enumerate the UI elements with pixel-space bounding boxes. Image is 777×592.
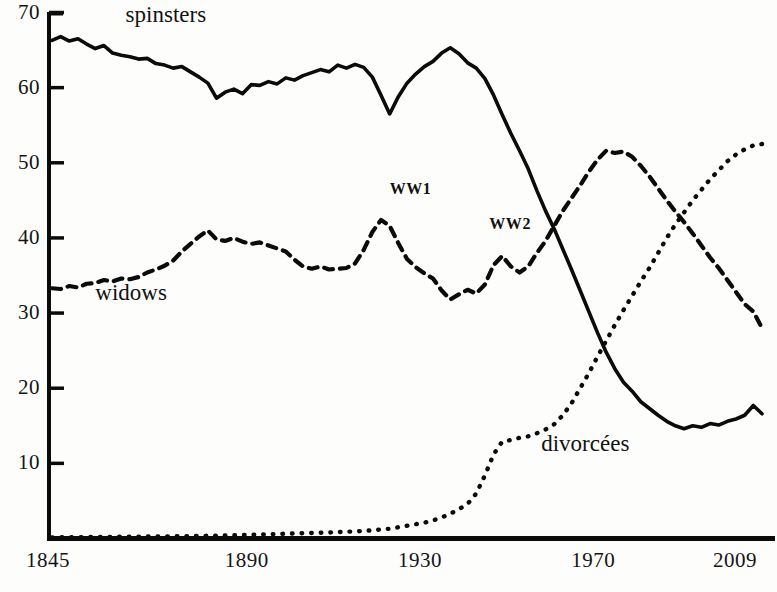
x-tick-label: 1845 [0,548,98,573]
x-tick-label: 2009 [685,548,777,573]
x-tick-label: 1930 [370,548,470,573]
annotation-ww2: WW2 [489,215,531,233]
annotation-divorc-es: divorcées [541,431,629,457]
chart-y-ticks [49,13,64,464]
series-line-spinsters [52,37,762,429]
y-tick-label: 30 [0,300,40,325]
y-tick-label: 50 [0,150,40,175]
y-tick-label: 70 [0,0,40,25]
chart-container: 10203040506070 18451890193019702009 spin… [0,0,777,592]
chart-axes [47,12,775,540]
x-tick-label: 1890 [197,548,297,573]
x-tick-label: 1970 [543,548,643,573]
annotation-widows: widows [95,280,167,306]
y-tick-label: 40 [0,225,40,250]
annotation-spinsters: spinsters [126,2,207,28]
y-tick-label: 10 [0,450,40,475]
annotation-ww1: WW1 [390,180,432,198]
y-tick-label: 60 [0,75,40,100]
y-tick-label: 20 [0,375,40,400]
series-line-divorcées [52,144,762,537]
